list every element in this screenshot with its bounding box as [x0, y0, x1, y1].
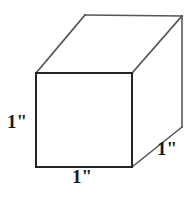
dimension-label-depth: 1" — [157, 139, 177, 158]
cube-front-face — [36, 73, 132, 167]
front-face-rect — [36, 73, 132, 167]
cube-figure — [0, 0, 194, 199]
edge-top-left-diagonal — [36, 15, 85, 73]
edge-back-top — [85, 15, 182, 16]
dimension-label-width: 1" — [72, 167, 92, 186]
cube-diagram: 1" 1" 1" — [0, 0, 194, 199]
edge-top-right-diagonal — [132, 16, 182, 73]
dimension-label-height: 1" — [7, 112, 27, 131]
